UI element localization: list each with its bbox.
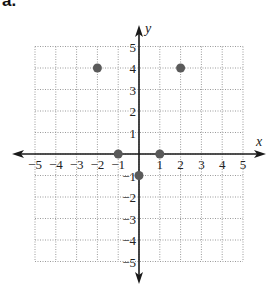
y-tick-label: 1 [130, 126, 137, 141]
x-tick-label: −4 [49, 157, 63, 172]
x-tick-label: −2 [90, 157, 104, 172]
y-tick-label: −3 [122, 212, 136, 227]
x-tick-label: 5 [240, 157, 247, 172]
x-tick-label: −3 [70, 157, 84, 172]
x-tick-label: 4 [219, 157, 226, 172]
data-point [135, 171, 144, 180]
x-tick-label: 2 [177, 157, 184, 172]
y-tick-label: 3 [130, 83, 137, 98]
x-tick-label: 3 [198, 157, 205, 172]
x-axis-label: x [255, 134, 263, 149]
y-tick-label: −5 [122, 255, 136, 270]
y-tick-label: 2 [130, 104, 137, 119]
coordinate-plane: −5−4−3−2−11234554321−1−2−3−4−5 x y [0, 0, 271, 290]
data-point [155, 150, 164, 159]
data-point [176, 64, 185, 73]
data-point [114, 150, 123, 159]
y-tick-label: −4 [122, 233, 136, 248]
y-tick-label: −1 [122, 169, 136, 184]
x-tick-label: −5 [28, 157, 42, 172]
axes [12, 25, 266, 284]
y-tick-label: 5 [130, 40, 137, 55]
x-tick-label: 1 [157, 157, 164, 172]
y-tick-label: −2 [122, 190, 136, 205]
y-axis-label: y [143, 21, 152, 36]
y-tick-label: 4 [130, 61, 137, 76]
data-point [93, 64, 102, 73]
